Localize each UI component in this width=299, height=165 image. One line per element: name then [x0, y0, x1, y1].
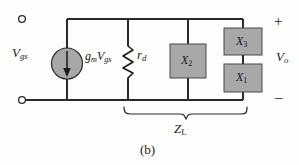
reactance-x3-label: X3	[236, 35, 247, 49]
figure-caption: (b)	[140, 143, 155, 156]
current-source-label: gmVgs	[85, 50, 112, 64]
load-impedance-brace-icon	[124, 107, 247, 119]
dependent-current-source-icon	[52, 48, 83, 79]
resistor-label: rd	[137, 48, 146, 63]
reactance-x2-label: X2	[181, 54, 192, 68]
load-impedance-label: ZL	[174, 122, 187, 137]
terminal-input-top-icon	[19, 16, 26, 23]
resistor-zigzag-icon	[123, 46, 133, 78]
circuit-schematic-svg	[0, 0, 299, 165]
output-voltage-label: Vo	[276, 50, 288, 65]
output-polarity-plus-label: +	[274, 14, 282, 29]
reactance-x1-label: X1	[236, 71, 247, 85]
output-polarity-minus-label: –	[275, 90, 283, 105]
terminal-input-bottom-icon	[19, 97, 26, 104]
input-voltage-label: Vgs	[12, 46, 28, 61]
circuit-figure: Vgs gmVgs rd X2 X3 X1 + Vo – ZL (b)	[0, 0, 299, 165]
